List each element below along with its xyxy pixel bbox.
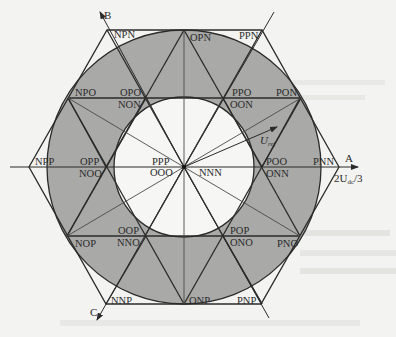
axis-c-label: C	[90, 306, 97, 318]
small-vector-upper-label: OOP	[118, 225, 139, 236]
small-vector-lower-label: NNO	[117, 237, 140, 248]
medium-vector-label: OPN	[190, 32, 211, 43]
small-vector-lower-label: NON	[118, 99, 141, 110]
large-vector-label: NPP	[35, 156, 54, 167]
small-vector-upper-label: POP	[230, 225, 249, 236]
small-vector-lower-label: ONN	[266, 168, 289, 179]
zero-vector-label: OOO	[150, 167, 173, 178]
medium-vector-label: PNO	[277, 238, 298, 249]
space-vector-diagram: A 2Udc/3 B C Uref PPP OOO NNN PNN PPN NP…	[0, 0, 396, 337]
zero-vector-label: PPP	[152, 156, 170, 167]
small-vector-upper-label: PPO	[232, 87, 252, 98]
small-vector-lower-label: NOO	[79, 168, 102, 179]
medium-vector-label: PON	[276, 87, 297, 98]
small-vector-upper-label: OPO	[120, 87, 141, 98]
large-vector-label: PNN	[313, 156, 334, 167]
medium-vector-label: NOP	[75, 238, 96, 249]
axis-a-label: A	[345, 152, 353, 164]
origin-point	[182, 165, 186, 169]
small-vector-lower-label: OON	[230, 99, 253, 110]
large-vector-label: PNP	[237, 295, 256, 306]
small-vector-upper-label: OPP	[80, 156, 99, 167]
axis-a-magnitude: 2Udc/3	[334, 172, 363, 186]
zero-vector-label: NNN	[199, 167, 222, 178]
large-vector-label: PPN	[239, 30, 259, 41]
small-vector-lower-label: ONO	[230, 237, 253, 248]
large-vector-label: NPN	[114, 29, 135, 40]
medium-vector-label: ONP	[189, 295, 210, 306]
large-vector-label: NNP	[111, 295, 132, 306]
axis-b-label: B	[104, 9, 111, 21]
small-vector-upper-label: POO	[266, 156, 287, 167]
medium-vector-label: NPO	[75, 87, 96, 98]
